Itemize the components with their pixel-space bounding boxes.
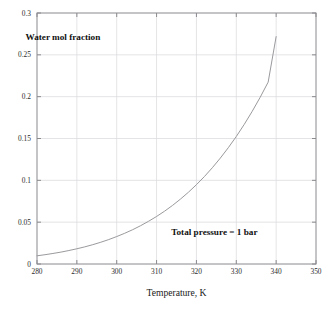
y-tick-label: 0.05 [18,218,31,227]
x-tick-label: 290 [71,267,82,276]
y-tick-label: 0.1 [22,176,32,185]
x-tick-label: 320 [191,267,202,276]
plot-annotations: Water mol fractionTotal pressure = 1 bar [25,32,257,237]
x-tick-label: 280 [31,267,42,276]
water-mol-fraction-chart: 280290300310320330340350 00.050.10.150.2… [0,0,333,309]
condition-label: Total pressure = 1 bar [171,227,257,237]
y-tick-label: 0.25 [18,50,31,59]
x-tick-label: 340 [271,267,282,276]
series-label: Water mol fraction [25,32,100,42]
x-tick-label: 310 [151,267,162,276]
y-axis-tick-labels: 00.050.10.150.20.250.3 [18,9,31,269]
x-axis-tick-labels: 280290300310320330340350 [31,267,321,276]
x-axis-title: Temperature, K [146,287,206,298]
y-tick-label: 0.15 [18,134,31,143]
chart-figure: 280290300310320330340350 00.050.10.150.2… [0,0,333,309]
x-tick-label: 350 [310,267,321,276]
y-tick-label: 0 [27,260,31,269]
y-tick-label: 0.2 [22,92,32,101]
x-tick-label: 300 [111,267,122,276]
y-tick-label: 0.3 [22,9,32,18]
y-gridlines [37,55,316,222]
x-tick-label: 330 [231,267,242,276]
